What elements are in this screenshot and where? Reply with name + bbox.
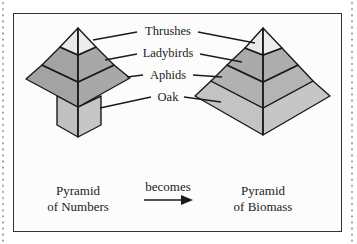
connector-label: becomes: [145, 179, 190, 194]
pyramid-of-biomass: [195, 28, 330, 135]
left-caption-line1: Pyramid: [56, 183, 101, 198]
pyramid-of-numbers: [26, 28, 130, 137]
label-ladybirds: Ladybirds: [143, 46, 194, 60]
pyramid-diagram: Thrushes Ladybirds Aphids Oak Pyramid of…: [0, 0, 357, 244]
right-caption-line1: Pyramid: [241, 183, 286, 198]
arrow-head-icon: [181, 195, 193, 205]
label-thrushes: Thrushes: [145, 24, 191, 38]
right-caption-line2: of Biomass: [234, 199, 293, 214]
label-oak: Oak: [158, 90, 180, 104]
label-aphids: Aphids: [150, 68, 186, 82]
left-caption-line2: of Numbers: [47, 199, 109, 214]
